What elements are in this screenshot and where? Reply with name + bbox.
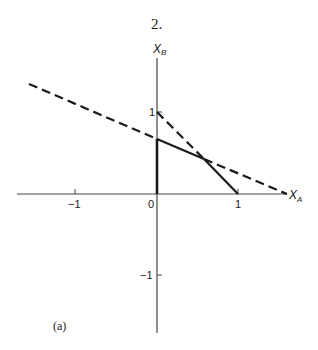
x-tick-label-1: 1 [235, 198, 241, 210]
y-tick-label-neg1: −1 [140, 269, 153, 281]
steep-line-dashed [157, 112, 204, 159]
figure-number: 2. [151, 16, 162, 32]
y-axis-label: X B [152, 42, 167, 57]
x-tick-label-0: 0 [148, 198, 154, 210]
shallow-line-dashed-right [204, 159, 287, 194]
shallow-line-solid [157, 139, 204, 159]
panel-label: (a) [53, 319, 66, 333]
svg-text:B: B [161, 48, 167, 57]
svg-text:A: A [296, 195, 302, 204]
steep-line-solid [204, 159, 238, 194]
x-axis-label: X A [288, 188, 302, 204]
diagram-canvas: 2. X B X A −1 0 1 1 −1 (a) [0, 0, 318, 350]
shallow-line-dashed-left [29, 84, 157, 139]
x-tick-label-neg1: −1 [68, 198, 81, 210]
y-tick-label-1: 1 [149, 106, 155, 118]
